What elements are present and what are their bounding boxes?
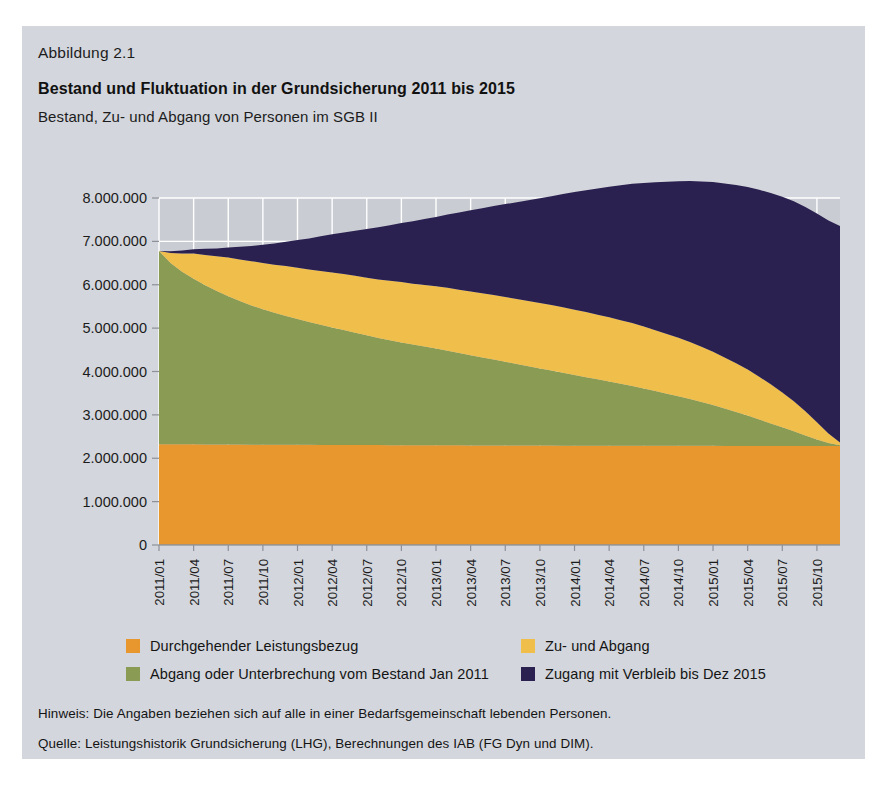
area-series: [159, 444, 840, 545]
y-axis-tick-label: 1.000.000: [82, 494, 147, 510]
y-axis-tick-label: 8.000.000: [82, 190, 147, 206]
legend-item: Abgang oder Unterbrechung vom Bestand Ja…: [126, 666, 489, 682]
y-axis-tick-label: 2.000.000: [82, 450, 147, 466]
x-axis-tick-label: 2012/04: [325, 559, 340, 607]
legend-label: Abgang oder Unterbrechung vom Bestand Ja…: [150, 666, 489, 682]
x-axis-tick-label: 2015/01: [706, 559, 721, 607]
chart-legend: Durchgehender LeistungsbezugAbgang oder …: [126, 638, 856, 696]
x-axis-tick-label: 2011/07: [221, 559, 236, 606]
x-axis-tick-label: 2013/04: [464, 559, 479, 607]
figure-subtitle: Bestand, Zu- und Abgang von Personen im …: [38, 108, 378, 125]
x-axis-tick-label: 2011/04: [187, 559, 202, 606]
legend-swatch-icon: [126, 667, 140, 681]
x-axis-tick-label: 2015/04: [741, 559, 756, 607]
chart-svg: 01.000.0002.000.0003.000.0004.000.0005.0…: [30, 156, 860, 636]
x-axis-tick-label: 2012/07: [360, 559, 375, 607]
legend-swatch-icon: [521, 639, 535, 653]
x-axis-tick-label: 2015/10: [810, 559, 825, 607]
figure-card: Abbildung 2.1 Bestand und Fluktuation in…: [22, 26, 865, 759]
legend-label: Zugang mit Verbleib bis Dez 2015: [545, 666, 766, 682]
y-axis-tick-label: 4.000.000: [82, 364, 147, 380]
figure-page: Abbildung 2.1 Bestand und Fluktuation in…: [0, 0, 887, 787]
legend-item: Durchgehender Leistungsbezug: [126, 638, 358, 654]
legend-swatch-icon: [126, 639, 140, 653]
figure-note: Hinweis: Die Angaben beziehen sich auf a…: [38, 706, 611, 721]
x-axis-tick-label: 2011/01: [152, 559, 167, 606]
x-axis-tick-label: 2012/01: [291, 559, 306, 607]
y-axis-tick-label: 3.000.000: [82, 407, 147, 423]
figure-source: Quelle: Leistungshistorik Grundsicherung…: [38, 736, 594, 751]
figure-number: Abbildung 2.1: [38, 44, 135, 62]
y-axis-tick-label: 5.000.000: [82, 320, 147, 336]
x-axis-tick-label: 2013/01: [429, 559, 444, 607]
stacked-area-chart: 01.000.0002.000.0003.000.0004.000.0005.0…: [30, 156, 860, 636]
legend-item: Zugang mit Verbleib bis Dez 2015: [521, 666, 766, 682]
legend-label: Zu- und Abgang: [545, 638, 650, 654]
x-axis-tick-label: 2011/10: [256, 559, 271, 606]
x-axis-tick-label: 2014/07: [637, 559, 652, 607]
x-axis-tick-label: 2014/04: [602, 559, 617, 607]
y-axis-tick-label: 6.000.000: [82, 277, 147, 293]
figure-title: Bestand und Fluktuation in der Grundsich…: [38, 80, 515, 98]
x-axis-tick-label: 2015/07: [775, 559, 790, 607]
legend-swatch-icon: [521, 667, 535, 681]
legend-item: Zu- und Abgang: [521, 638, 650, 654]
x-axis-tick-label: 2013/07: [498, 559, 513, 607]
x-axis-tick-label: 2014/01: [568, 559, 583, 607]
x-axis-tick-label: 2014/10: [671, 559, 686, 607]
x-axis-tick-label: 2013/10: [533, 559, 548, 607]
legend-label: Durchgehender Leistungsbezug: [150, 638, 358, 654]
y-axis-tick-label: 7.000.000: [82, 233, 147, 249]
x-axis-tick-label: 2012/10: [394, 559, 409, 607]
y-axis-tick-label: 0: [139, 537, 147, 553]
